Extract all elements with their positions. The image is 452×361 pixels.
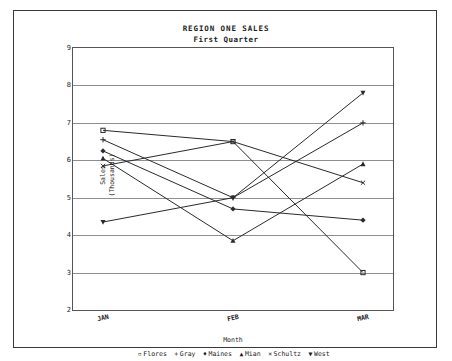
- data-point-marker: [360, 120, 365, 125]
- chart-series-svg: [73, 48, 393, 310]
- legend-item-flores: ▫Flores: [136, 350, 166, 358]
- triangle-up-icon: ▲: [238, 350, 245, 358]
- legend-item-maines: ♦Maines: [201, 350, 231, 358]
- x-axis-tick-jan: JAN: [96, 313, 109, 323]
- legend-item-schultz: ×Schultz: [267, 350, 301, 358]
- cross-icon: ×: [267, 350, 274, 358]
- legend-label: Gray: [180, 350, 196, 358]
- x-axis-label: Month: [73, 336, 393, 344]
- y-axis-tick-6: 6: [51, 156, 71, 164]
- legend-item-west: ▼West: [307, 350, 330, 358]
- chart-title-block: REGION ONE SALES First Quarter: [14, 23, 438, 45]
- series-line-schultz: [103, 142, 363, 183]
- legend-label: West: [314, 350, 330, 358]
- y-axis-tick-4: 4: [51, 231, 71, 239]
- x-axis-tick-mar: MAR: [356, 313, 369, 323]
- plot-area: 98765432 JANFEBMAR Sales (Thousands) Mon…: [72, 47, 394, 311]
- y-axis-tick-2: 2: [51, 306, 71, 314]
- y-axis-tick-8: 8: [51, 81, 71, 89]
- chart-title: REGION ONE SALES: [14, 23, 438, 34]
- y-axis-tick-3: 3: [51, 268, 71, 276]
- chart-subtitle: First Quarter: [14, 34, 438, 45]
- series-line-flores: [103, 130, 363, 272]
- data-point-marker: [360, 218, 365, 223]
- y-axis-label: Sales (Thousands): [99, 130, 117, 220]
- y-axis-label-line1: Sales: [99, 130, 108, 220]
- chart-legend: ▫Flores+Gray♦Maines▲Mian×Schultz▼West: [73, 350, 393, 358]
- legend-label: Schultz: [274, 350, 301, 358]
- chart-frame: REGION ONE SALES First Quarter 98765432 …: [13, 10, 437, 348]
- legend-label: Mian: [245, 350, 261, 358]
- x-axis-tick-feb: FEB: [226, 313, 239, 323]
- legend-item-gray: +Gray: [173, 350, 196, 358]
- legend-label: Maines: [208, 350, 231, 358]
- legend-label: Flores: [143, 350, 166, 358]
- plus-icon: +: [173, 350, 180, 358]
- data-point-marker: [230, 206, 235, 211]
- data-point-marker: [231, 238, 236, 243]
- data-point-marker: [101, 220, 106, 225]
- y-axis-tick-9: 9: [51, 44, 71, 52]
- data-point-marker: [361, 161, 366, 166]
- y-axis-label-line2: (Thousands): [108, 130, 117, 220]
- legend-item-mian: ▲Mian: [238, 350, 261, 358]
- y-axis-tick-7: 7: [51, 118, 71, 126]
- triangle-down-icon: ▼: [307, 350, 314, 358]
- y-axis-tick-5: 5: [51, 193, 71, 201]
